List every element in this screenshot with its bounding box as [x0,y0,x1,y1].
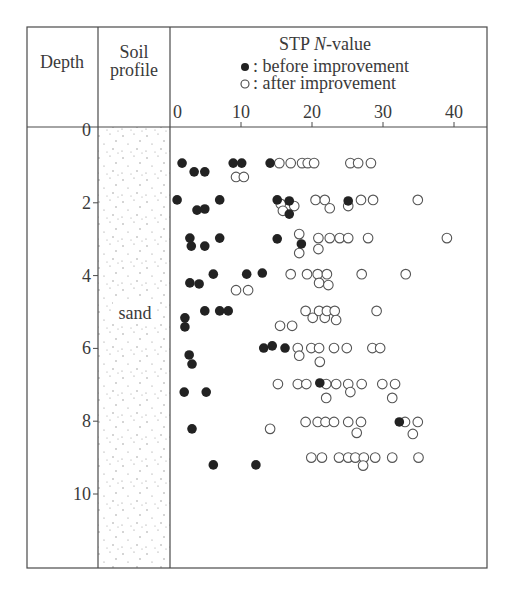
data-point-after [325,233,335,243]
data-point-before [258,268,268,278]
data-point-before [180,322,190,332]
data-point-after [401,269,411,279]
data-point-before [200,241,210,251]
data-point-after [314,244,324,254]
data-point-after [314,278,324,288]
data-point-after [357,269,367,279]
data-point-before [272,195,282,205]
y-tick-label: 0 [82,120,91,140]
data-point-after [372,306,382,316]
data-point-after [356,195,366,205]
x-tick-label: 0 [173,102,182,122]
data-point-after [313,269,323,279]
data-point-after [315,357,325,367]
spt-chart: Depth Soil profile STP N-value : before … [0,0,516,597]
data-point-before [343,196,353,206]
soil-type-label: sand [119,303,152,323]
data-point-after [294,248,304,258]
data-point-before [184,350,194,360]
data-point-after [231,285,241,295]
x-tick-label: 30 [374,102,392,122]
data-point-before [209,269,219,279]
series-after-improvement [231,158,451,470]
data-point-before [315,378,325,388]
data-point-after [265,424,275,434]
x-tick-label: 20 [303,102,321,122]
data-point-after [413,417,423,427]
data-point-after [286,158,296,168]
soil-column-header-line2: profile [110,60,158,80]
data-point-after [330,306,340,316]
data-point-after [346,387,356,397]
y-axis: 0246810 [73,120,98,504]
depth-column-header: Depth [40,52,84,72]
data-point-before [237,158,247,168]
data-point-after [325,203,335,213]
x-tick-label: 40 [445,102,463,122]
y-tick-label: 8 [82,411,91,431]
data-point-after [442,233,452,243]
legend-after-label: : after improvement [253,73,396,93]
data-point-after [322,269,332,279]
data-point-after [358,461,368,471]
data-point-after [317,453,327,463]
data-point-after [239,172,249,182]
data-point-after [363,233,373,243]
y-tick-label: 2 [82,193,91,213]
data-point-after [356,417,366,427]
data-point-before [267,341,277,351]
title-suffix: -value [326,34,371,54]
data-point-before [177,158,187,168]
data-point-after [311,195,321,205]
data-point-after [408,429,418,439]
data-point-before [185,278,195,288]
data-point-before [242,269,252,279]
data-point-after [302,379,312,389]
data-point-after [353,158,363,168]
data-point-before [187,424,197,434]
data-point-after [414,453,424,463]
data-point-after [243,285,253,295]
data-point-after [275,321,285,331]
y-tick-label: 10 [73,484,91,504]
data-point-before [200,306,210,316]
data-point-after [366,158,376,168]
data-point-after [294,351,304,361]
data-point-after [329,417,339,427]
legend-filled-marker-icon [241,63,249,71]
x-axis: 010203040 [173,102,463,127]
data-point-after [331,315,341,325]
data-point-after [329,343,339,353]
data-point-before [215,233,225,243]
data-point-after [331,379,341,389]
data-point-before [215,306,225,316]
data-point-after [301,417,311,427]
x-tick-label: 10 [232,102,250,122]
data-point-before [187,359,197,369]
data-point-before [189,167,199,177]
soil-column-header-line1: Soil [119,42,148,62]
data-point-after [273,379,283,389]
soil-profile-fill [98,127,170,568]
data-point-before [284,209,294,219]
data-point-after [370,453,380,463]
data-point-after [377,379,387,389]
data-point-after [275,158,285,168]
table-frame [27,27,487,568]
data-point-before [200,167,210,177]
data-point-after [343,417,353,427]
data-point-after [334,453,344,463]
data-point-after [324,280,334,290]
data-point-after [390,379,400,389]
data-point-after [294,229,304,239]
title-prefix: STP [279,34,314,54]
data-point-after [375,343,385,353]
data-point-before [194,279,204,289]
data-point-after [287,321,297,331]
data-point-before [251,460,261,470]
legend-open-marker-icon [241,80,249,88]
data-point-after [286,269,296,279]
data-point-after [302,269,312,279]
data-point-before [180,313,190,323]
data-point-before [265,158,275,168]
